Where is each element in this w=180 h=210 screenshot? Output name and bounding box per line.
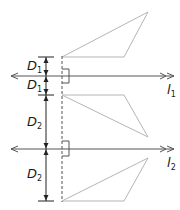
arrow-icon	[44, 195, 49, 201]
label-d2-lower: D2	[27, 166, 42, 183]
label-d1-upper: D1	[27, 58, 42, 75]
arrow-icon	[44, 89, 49, 95]
triangle-reflection-1	[62, 95, 148, 137]
label-d2-upper: D2	[27, 114, 42, 131]
label-line-l2: l2	[167, 155, 176, 172]
arrow-icon	[44, 70, 49, 76]
label-d1-lower: D1	[27, 77, 42, 94]
reflection-diagram: D1 D1 D2 D2 l1 l2	[0, 0, 180, 210]
arrow-icon	[44, 150, 49, 156]
arrow-icon	[44, 96, 49, 102]
arrow-icon	[44, 77, 49, 83]
arrow-icon	[44, 58, 49, 64]
label-line-l1: l1	[167, 82, 176, 99]
arrow-icon	[44, 143, 49, 149]
triangle-original	[62, 12, 148, 57]
triangle-reflection-2	[62, 158, 148, 201]
